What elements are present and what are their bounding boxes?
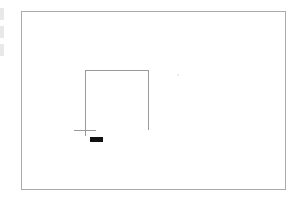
drawn-shape[interactable] (85, 70, 149, 130)
cursor-coordinate-label (90, 137, 103, 142)
tool-mark[interactable] (0, 8, 4, 20)
tool-mark[interactable] (0, 44, 4, 56)
tool-mark[interactable] (0, 26, 4, 38)
side-toolbar (0, 8, 6, 68)
drawing-canvas[interactable] (21, 11, 286, 190)
crosshair-cursor-vertical-icon (85, 124, 86, 136)
canvas-dot (177, 74, 179, 76)
